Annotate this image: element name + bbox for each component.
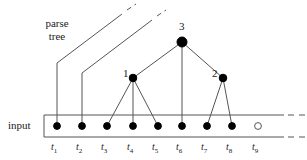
- parse-tree-figure: parse tree input 312 t1t2t3t4t5t6t7t8t9: [0, 0, 307, 160]
- token-tick-label: t3: [101, 142, 107, 155]
- token-tick-label: t5: [152, 142, 158, 155]
- token-dot: [104, 123, 111, 130]
- tree-node: [177, 37, 187, 47]
- tree-node: [219, 74, 227, 82]
- token-dot: [255, 123, 262, 130]
- token-dot: [204, 123, 211, 130]
- token-tick-label: t1: [51, 142, 57, 155]
- token-dot: [79, 123, 86, 130]
- token-dot: [54, 123, 61, 130]
- token-dot: [130, 123, 137, 130]
- parse-tree-label-line2: tree: [34, 31, 80, 42]
- dangling-edge-dashes: [127, 4, 136, 10]
- dangling-edge-dashes: [157, 10, 166, 16]
- tree-edge: [207, 78, 223, 126]
- token-dot: [229, 123, 236, 130]
- token-tick-label: t8: [226, 142, 232, 155]
- tree-node-label: 2: [212, 68, 218, 79]
- token-tick-label: t2: [76, 142, 82, 155]
- tree-node-label: 1: [123, 68, 129, 79]
- token-tick-label: t9: [252, 142, 258, 155]
- token-dot: [179, 123, 186, 130]
- tree-edge: [107, 78, 133, 126]
- dangling-edge-diagonal: [82, 20, 152, 73]
- parse-tree-label: parse tree: [34, 18, 80, 42]
- tree-node: [129, 74, 137, 82]
- tree-node-label: 3: [179, 21, 185, 32]
- token-tick-label: t6: [176, 142, 182, 155]
- parse-tree-label-line1: parse: [34, 18, 80, 29]
- token-tick-label: t4: [127, 142, 133, 155]
- tree-edge: [223, 78, 232, 126]
- tree-edge: [133, 78, 158, 126]
- tree-edge: [133, 42, 182, 78]
- token-tick-label: t7: [201, 142, 207, 155]
- token-dot: [155, 123, 162, 130]
- input-label: input: [8, 120, 31, 131]
